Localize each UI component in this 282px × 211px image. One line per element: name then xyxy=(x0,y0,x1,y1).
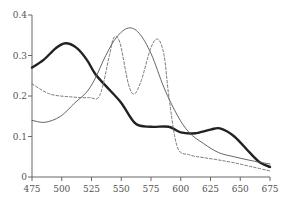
y-tick-label: 0.2 xyxy=(13,91,27,101)
x-tick-label: 650 xyxy=(232,184,249,194)
x-tick-label: 525 xyxy=(83,184,100,194)
x-tick-label: 600 xyxy=(172,184,189,194)
x-tick-label: 675 xyxy=(261,184,278,194)
x-axis: 475500525550575600625650675 xyxy=(23,177,278,194)
series-line-thin-solid xyxy=(32,28,270,164)
y-tick-label: 0 xyxy=(21,172,27,182)
x-tick-label: 500 xyxy=(53,184,70,194)
y-tick-label: 0.3 xyxy=(13,51,28,61)
y-tick-label: 0.1 xyxy=(13,132,27,142)
plot-area xyxy=(32,28,270,171)
y-tick-label: 0.4 xyxy=(13,10,28,20)
y-axis: 00.10.20.30.4 xyxy=(13,10,32,182)
x-tick-label: 550 xyxy=(113,184,130,194)
spectrum-line-chart: 00.10.20.30.4 47550052555057560062565067… xyxy=(0,0,282,211)
x-tick-label: 475 xyxy=(23,184,40,194)
series-line-dashed xyxy=(32,36,270,171)
series-line-thick-solid xyxy=(32,43,270,167)
x-tick-label: 625 xyxy=(202,184,219,194)
x-tick-label: 575 xyxy=(142,184,159,194)
